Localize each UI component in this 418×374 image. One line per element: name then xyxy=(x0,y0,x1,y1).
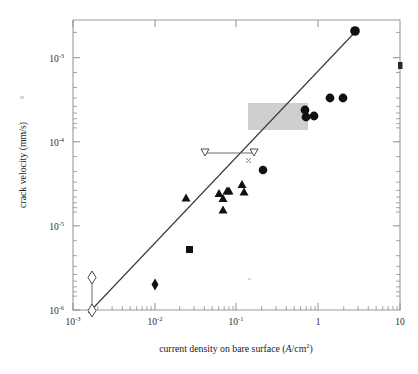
y-tick-label: 10-5 xyxy=(49,220,64,232)
filled-square-series xyxy=(186,246,193,253)
scan-speck xyxy=(20,96,251,280)
y-axis-major-ticks xyxy=(73,58,400,310)
x-tick-label: 10 xyxy=(395,317,405,327)
cross-marker xyxy=(246,158,251,163)
x-tick-labels: 10-3 10-2 10-1 1 10 xyxy=(66,315,405,327)
right-axis-marker xyxy=(398,62,403,69)
plot-frame xyxy=(73,20,400,310)
x-tick-label: 10-1 xyxy=(229,315,244,327)
x-axis-title-text: current density on bare surface (A/cm2) xyxy=(159,342,313,355)
filled-triangle-series xyxy=(182,180,249,214)
y-tick-label: 10-4 xyxy=(49,136,65,148)
scatter-plot-svg: 10-3 10-2 10-1 1 10 10-3 10-4 xyxy=(0,0,418,374)
y-axis-title-text: crack velocity (mm/s) xyxy=(17,122,29,208)
y-tick-label: 10-6 xyxy=(49,304,64,316)
axis-frame-box xyxy=(73,20,400,310)
open-diamonds-upper-bound xyxy=(88,271,96,317)
x-tick-label: 1 xyxy=(316,317,321,327)
filled-diamond-series xyxy=(152,279,159,291)
x-tick-label: 10-3 xyxy=(66,315,81,327)
x-axis-title: current density on bare surface (A/cm2) xyxy=(159,342,313,355)
y-axis-minor-ticks xyxy=(73,32,400,296)
y-tick-label: 10-3 xyxy=(49,52,64,64)
literature-scatter-band xyxy=(248,103,308,130)
faraday-prediction-line xyxy=(89,29,359,313)
filled-circle-series xyxy=(259,26,360,174)
x-tick-label: 10-2 xyxy=(148,315,163,327)
y-axis-title: crack velocity (mm/s) xyxy=(17,122,29,208)
x-axis-minor-ticks xyxy=(98,306,397,310)
x-axis-major-ticks xyxy=(73,20,400,310)
open-triangle-range-series xyxy=(201,149,258,156)
y-tick-labels: 10-3 10-4 10-5 10-6 xyxy=(49,52,65,316)
figure-container: 10-3 10-2 10-1 1 10 10-3 10-4 xyxy=(0,0,418,374)
